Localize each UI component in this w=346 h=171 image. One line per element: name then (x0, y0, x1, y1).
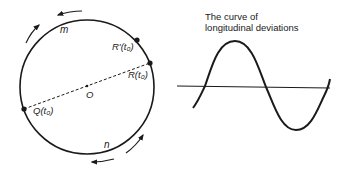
point-q (21, 106, 26, 111)
point-r-prime (134, 37, 139, 42)
arrow-top-icon (58, 11, 82, 15)
point-r (147, 60, 152, 65)
arrow-bottom-icon (92, 159, 114, 162)
label-q: Q(t₀) (33, 105, 53, 116)
label-r: R(t₀) (128, 69, 148, 80)
label-o: O (86, 89, 94, 100)
curve-axis (177, 86, 330, 88)
arrow-upper-left-icon (26, 25, 39, 43)
center-point (86, 85, 89, 88)
label-r-prime: R'(t₀) (112, 41, 134, 52)
curve-title-line2: longitudinal deviations (205, 22, 299, 33)
label-m: m (60, 24, 68, 35)
label-n: n (104, 139, 110, 150)
curve-title-line1: The curve of (205, 11, 258, 22)
deviation-curve (193, 41, 330, 130)
diagram-canvas: m n O R'(t₀) R(t₀) Q(t₀) The curve of lo… (0, 0, 346, 171)
arrow-lower-right-icon (126, 135, 143, 153)
